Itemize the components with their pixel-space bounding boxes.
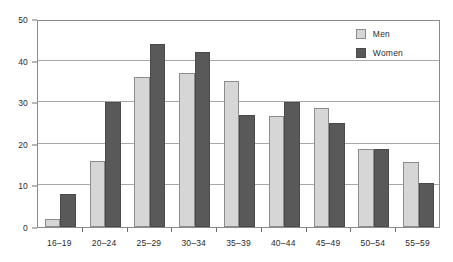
bar-men-45–49 (314, 108, 330, 227)
bar-group (217, 21, 262, 227)
x-axis-tick-mark (350, 228, 351, 232)
x-axis-tick-label: 50–54 (361, 238, 386, 248)
y-axis: 01020304050 (0, 0, 37, 262)
bar-women-50–54 (374, 149, 390, 227)
x-axis-tick-mark (216, 228, 217, 232)
x-axis-tick-label: 55–59 (405, 238, 430, 248)
plot-area: MenWomen (37, 20, 440, 228)
bar-group (128, 21, 173, 227)
bar-group (307, 21, 352, 227)
x-axis-tick-label: 45–49 (316, 238, 341, 248)
bar-men-50–54 (358, 149, 374, 227)
x-axis-tick-label: 30–34 (181, 238, 206, 248)
y-axis-tick-label: 30 (18, 98, 28, 108)
x-axis: 16–1920–2425–2930–3435–3940–4445–4950–54… (37, 228, 440, 262)
men-swatch-icon (356, 29, 366, 39)
x-axis-tick-label: 25–29 (137, 238, 162, 248)
x-axis-tick-label: 35–39 (226, 238, 251, 248)
bar-women-55–59 (419, 183, 435, 228)
y-axis-tick-label: 0 (23, 223, 28, 233)
legend-label: Men (373, 29, 390, 39)
bar-group (262, 21, 307, 227)
x-axis-tick-label: 40–44 (271, 238, 296, 248)
bar-men-16–19 (45, 219, 61, 227)
legend-item-men: Men (356, 29, 403, 39)
x-axis-tick-mark (306, 228, 307, 232)
bar-women-40–44 (284, 102, 300, 227)
x-axis-tick-label: 20–24 (92, 238, 117, 248)
x-axis-tick-mark (395, 228, 396, 232)
bar-women-16–19 (60, 194, 76, 227)
bar-men-40–44 (269, 116, 285, 227)
y-axis-tick-label: 50 (18, 15, 28, 25)
y-axis-tick-label: 10 (18, 181, 28, 191)
legend-item-women: Women (356, 48, 403, 58)
bar-women-45–49 (329, 123, 345, 227)
x-axis-tick-mark (82, 228, 83, 232)
chart-legend: MenWomen (356, 29, 403, 58)
x-axis-tick-label: 16–19 (47, 238, 72, 248)
bar-men-20–24 (90, 161, 106, 227)
bar-group (83, 21, 128, 227)
x-axis-tick-mark (171, 228, 172, 232)
x-axis-tick-mark (261, 228, 262, 232)
x-axis-tick-mark (127, 228, 128, 232)
bar-men-35–39 (224, 81, 240, 227)
y-axis-tick-label: 40 (18, 57, 28, 67)
bar-women-30–34 (195, 52, 211, 227)
bar-women-35–39 (239, 115, 255, 227)
bar-women-20–24 (105, 102, 121, 227)
bar-women-25–29 (150, 44, 166, 227)
women-swatch-icon (356, 48, 366, 58)
bar-group (172, 21, 217, 227)
bar-men-30–34 (179, 73, 195, 227)
bar-group (38, 21, 83, 227)
bar-chart: 01020304050 MenWomen 16–1920–2425–2930–3… (0, 0, 453, 262)
legend-label: Women (373, 48, 403, 58)
bar-men-25–29 (134, 77, 150, 227)
bar-men-55–59 (403, 162, 419, 227)
y-axis-tick-label: 20 (18, 140, 28, 150)
